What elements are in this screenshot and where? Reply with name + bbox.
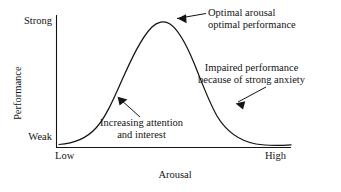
- annotation-impaired-line1: Impaired performance: [205, 62, 299, 73]
- annotation-impaired-line2: because of strong anxiety: [198, 74, 305, 86]
- yerkes-dodson-figure: Strong Weak Low High Performance Arousal…: [0, 0, 341, 192]
- annotation-optimal-line1: Optimal arousal: [208, 7, 275, 18]
- increasing-attention-arrow: [118, 97, 140, 117]
- annotation-optimal-arousal: Optimal arousal optimal performance: [208, 7, 296, 31]
- x-axis-title: Arousal: [125, 169, 225, 181]
- y-tick-weak: Weak: [16, 131, 52, 143]
- annotation-increasing-line1: Increasing attention: [100, 117, 183, 128]
- annotation-impaired-performance: Impaired performance because of strong a…: [198, 62, 305, 86]
- annotation-increasing-line2: and interest: [100, 129, 183, 141]
- annotation-increasing-attention: Increasing attention and interest: [100, 117, 183, 141]
- optimal-arousal-arrow: [177, 14, 206, 24]
- y-tick-strong: Strong: [16, 15, 52, 27]
- x-tick-low: Low: [55, 150, 74, 162]
- x-tick-high: High: [265, 150, 286, 162]
- annotation-optimal-line2: optimal performance: [208, 19, 296, 31]
- impaired-performance-arrow: [236, 87, 266, 109]
- y-axis-title: Performance: [12, 66, 24, 120]
